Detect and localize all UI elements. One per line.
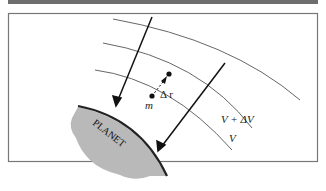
label-mass: m [145, 99, 153, 111]
label-displacement: Δ r [160, 88, 173, 100]
displaced-point [166, 71, 171, 76]
gravity-diagram: m Δ r V V + ΔV PLANET [0, 0, 326, 191]
label-potential-V-plus-dV: V + ΔV [221, 113, 255, 125]
